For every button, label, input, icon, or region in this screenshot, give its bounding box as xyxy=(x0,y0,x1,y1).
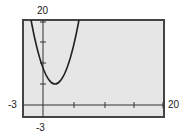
ymax-label: 20 xyxy=(37,6,48,16)
xmax-label: 20 xyxy=(168,100,179,110)
xmin-label: -3 xyxy=(8,100,17,110)
ymin-label: -3 xyxy=(36,123,45,133)
parabola-curve xyxy=(31,20,79,84)
plot-area xyxy=(0,0,184,136)
